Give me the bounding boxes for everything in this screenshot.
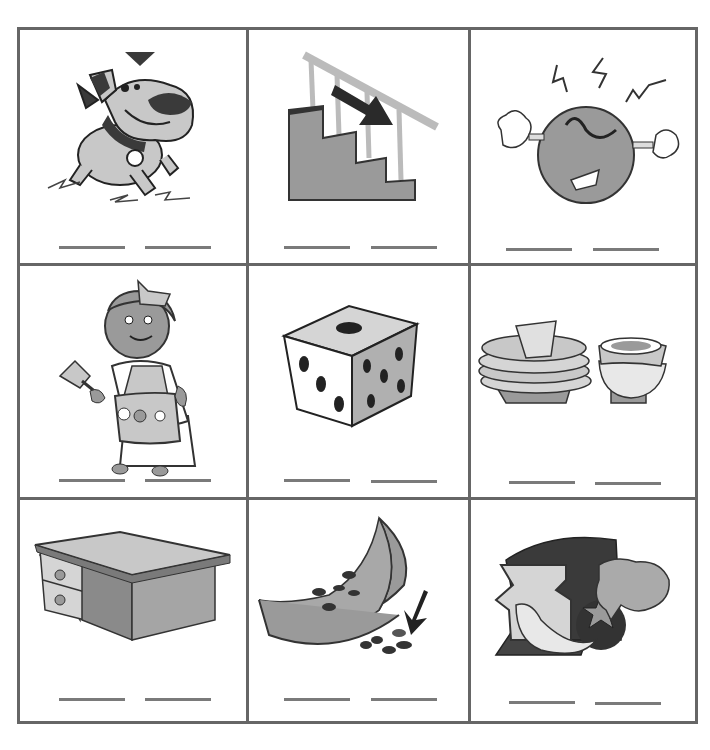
answer-blank[interactable] — [59, 698, 125, 701]
answer-blank[interactable] — [59, 246, 125, 249]
cell-watermelon — [249, 500, 468, 724]
answer-blank[interactable] — [595, 482, 661, 485]
stairs-icon — [249, 30, 468, 263]
answer-blank[interactable] — [145, 479, 211, 482]
cell-maid — [20, 266, 246, 497]
answer-blank[interactable] — [371, 246, 437, 249]
answer-blank[interactable] — [59, 479, 125, 482]
cell-desk — [20, 500, 246, 724]
answer-blank[interactable] — [509, 701, 575, 704]
cell-stairs — [249, 30, 468, 263]
answer-blank[interactable] — [145, 698, 211, 701]
angry-face-icon — [471, 30, 695, 263]
answer-blank[interactable] — [593, 248, 659, 251]
die-icon — [249, 266, 468, 497]
maid-icon — [20, 266, 246, 497]
answer-blank[interactable] — [145, 246, 211, 249]
answer-blank[interactable] — [284, 698, 350, 701]
answer-blank[interactable] — [284, 246, 350, 249]
answer-blank[interactable] — [371, 698, 437, 701]
answer-blank[interactable] — [506, 248, 572, 251]
cell-food — [471, 500, 695, 724]
cell-die — [249, 266, 468, 497]
cell-dog — [20, 30, 246, 263]
dishes-icon — [471, 266, 695, 497]
worksheet — [0, 0, 710, 750]
answer-blank[interactable] — [509, 481, 575, 484]
cell-dishes — [471, 266, 695, 497]
cell-angry-face — [471, 30, 695, 263]
watermelon-icon — [249, 500, 468, 724]
desk-icon — [20, 500, 246, 724]
dog-icon — [20, 30, 246, 263]
food-icon — [471, 500, 695, 724]
answer-blank[interactable] — [595, 702, 661, 705]
answer-blank[interactable] — [284, 479, 350, 482]
answer-blank[interactable] — [371, 480, 437, 483]
